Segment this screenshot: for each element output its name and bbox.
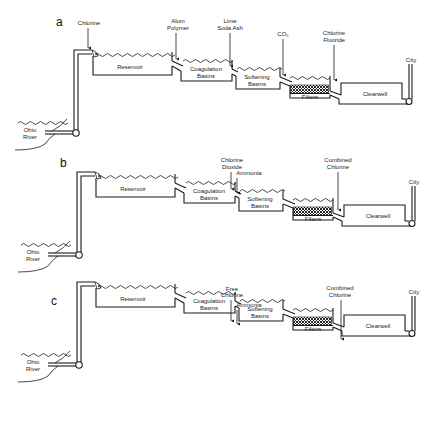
filters-label: Filters bbox=[305, 216, 321, 222]
river-label: Ohio bbox=[27, 359, 40, 365]
filters-label: Filters bbox=[305, 326, 321, 332]
chem-chlorine-label: Chlorine bbox=[78, 20, 101, 26]
chem-fluoride-label: Fluoride bbox=[323, 37, 345, 43]
clearwell-label: Clearwell bbox=[363, 91, 388, 97]
chem-alum-label: Alum bbox=[171, 18, 185, 24]
city-label: City bbox=[409, 289, 419, 295]
clearwell-label: Clearwell bbox=[366, 323, 391, 329]
softening-label-2: Basins bbox=[251, 313, 269, 319]
softening-label-2: Basins bbox=[251, 203, 269, 209]
coagulation-label: Coagulation bbox=[190, 66, 222, 72]
chem-ammonia-label: Ammonia bbox=[236, 302, 262, 308]
panel-label-b: b bbox=[60, 156, 67, 170]
reservoir-label: Reservoir bbox=[120, 186, 146, 192]
river-label: Ohio bbox=[27, 249, 40, 255]
unit-labels-c: Reservoir Coagulation Basins Softening B… bbox=[26, 289, 419, 372]
unit-labels-b: Reservoir Coagulation Basins Softening B… bbox=[26, 179, 419, 262]
chem-chlorine2-label: Chlorine bbox=[323, 30, 346, 36]
coagulation-label: Coagulation bbox=[193, 188, 225, 194]
chem-soda-label: Soda Ash bbox=[217, 25, 243, 31]
panel-a bbox=[15, 50, 412, 150]
panel-label-a: a bbox=[56, 15, 63, 29]
reservoir-label: Reservoir bbox=[120, 296, 146, 302]
city-label: City bbox=[406, 57, 416, 63]
chem-polymer-label: Polymer bbox=[167, 25, 189, 31]
panel-b bbox=[18, 172, 415, 272]
chem-chlorine-dioxide-label: Chlorine bbox=[221, 157, 244, 163]
chem-combined-chlorine-label-2: Chlorine bbox=[327, 164, 350, 170]
treatment-diagram: a b c Reservoir Coagulation Basins Softe… bbox=[0, 0, 439, 422]
reservoir-label: Reservoir bbox=[117, 64, 143, 70]
chem-combined-chlorine-label-2: Chlorine bbox=[329, 292, 352, 298]
chem-co2-label: CO₂ bbox=[277, 31, 289, 37]
coagulation-label-2: Basins bbox=[200, 305, 218, 311]
coagulation-label-2: Basins bbox=[197, 73, 215, 79]
softening-label-2: Basins bbox=[248, 81, 266, 87]
softening-label: Softening bbox=[244, 74, 269, 80]
chem-combined-chlorine-label: Combined bbox=[326, 285, 353, 291]
coagulation-label: Coagulation bbox=[193, 298, 225, 304]
chemicals-c: Free Chlorine Ammonia Combined Chlorine bbox=[221, 285, 354, 339]
coagulation-label-2: Basins bbox=[200, 195, 218, 201]
city-label: City bbox=[409, 179, 419, 185]
chemicals-b: Chlorine Dioxide Ammonia Combined Chlori… bbox=[221, 157, 352, 210]
chem-ammonia-label: Ammonia bbox=[236, 170, 262, 176]
panel-label-c: c bbox=[51, 294, 57, 308]
chem-combined-chlorine-label: Combined bbox=[324, 157, 351, 163]
filters-label: Filters bbox=[302, 94, 318, 100]
softening-label: Softening bbox=[247, 196, 272, 202]
river-label-2: River bbox=[26, 256, 40, 262]
river-label-2: River bbox=[23, 134, 37, 140]
unit-labels-a: Reservoir Coagulation Basins Softening B… bbox=[23, 57, 416, 140]
river-label-2: River bbox=[26, 366, 40, 372]
chem-free-chlorine-label-2: Chlorine bbox=[221, 292, 244, 298]
panel-c bbox=[18, 282, 415, 382]
river-label: Ohio bbox=[24, 127, 37, 133]
clearwell-label: Clearwell bbox=[366, 213, 391, 219]
chem-lime-label: Lime bbox=[223, 18, 237, 24]
